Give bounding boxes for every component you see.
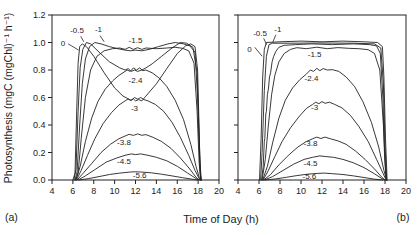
curve-depth--5.6 <box>265 173 383 180</box>
panel-b: 4681012141618200-0.5-1-1.5-2.4-3-3.8-4.5… <box>234 15 411 196</box>
y-tick-label: 0.4 <box>33 120 46 130</box>
curve-label-depth--1: -1 <box>95 25 103 34</box>
curve-label-depth-0: 0 <box>61 39 66 48</box>
x-tick-label: 6 <box>256 186 261 196</box>
curve-label-depth--2.4: -2.4 <box>129 76 143 85</box>
x-tick-label: 16 <box>172 186 182 196</box>
curve-label-depth--3.8: -3.8 <box>304 139 318 148</box>
x-tick-label: 14 <box>338 186 348 196</box>
y-tick-label: 0.0 <box>33 175 46 185</box>
x-tick-label: 18 <box>380 186 390 196</box>
curve-label-depth--4.5: -4.5 <box>304 159 318 168</box>
panel-b-letter: (b) <box>397 211 410 223</box>
curve-label-depth--1.5: -1.5 <box>308 50 322 59</box>
panel-a: 4681012141618200.00.20.40.60.81.01.20-0.… <box>33 10 224 196</box>
x-tick-label: 10 <box>110 186 120 196</box>
x-tick-label: 4 <box>49 186 54 196</box>
curve-label-leader <box>100 36 104 42</box>
curve-label-depth--0.5: -0.5 <box>253 29 267 38</box>
x-tick-label: 14 <box>151 186 161 196</box>
curve-label-depth--2.4: -2.4 <box>305 74 319 83</box>
x-tick-label: 10 <box>296 186 306 196</box>
x-tick-label: 12 <box>130 186 140 196</box>
x-tick-label: 20 <box>214 186 224 196</box>
x-tick-label: 8 <box>277 186 282 196</box>
curve-label-depth--5.6: -5.6 <box>133 171 147 180</box>
curve-label-depth--3.8: -3.8 <box>117 138 131 147</box>
curve-label-leader <box>68 44 78 50</box>
curve-label-depth--3: -3 <box>311 103 319 112</box>
y-tick-label: 1.0 <box>33 38 46 48</box>
curve-label-depth--3: -3 <box>131 104 139 113</box>
y-tick-label: 1.2 <box>33 10 46 20</box>
curve-depth--2.4 <box>263 68 387 180</box>
x-tick-label: 6 <box>70 186 75 196</box>
x-tick-label: 18 <box>193 186 203 196</box>
x-tick-label: 20 <box>401 186 411 196</box>
curve-label-leader <box>273 35 276 43</box>
figure: Photosynthesis (mgC (mgChl)⁻¹ h⁻¹) Time … <box>0 0 418 235</box>
curve-depth--0.5 <box>261 43 387 180</box>
curve-depth--4.5 <box>264 156 385 180</box>
y-tick-label: 0.2 <box>33 148 46 158</box>
curve-label-depth--0.5: -0.5 <box>70 26 84 35</box>
x-tick-label: 4 <box>235 186 240 196</box>
x-tick-label: 16 <box>359 186 369 196</box>
curve-label-depth--1: -1 <box>274 25 282 34</box>
x-tick-label: 12 <box>317 186 327 196</box>
y-tick-label: 0.8 <box>33 65 46 75</box>
y-axis-title: Photosynthesis (mgC (mgChl)⁻¹ h⁻¹) <box>2 13 14 183</box>
curve-label-leader <box>264 38 267 44</box>
curve-label-depth--4.5: -4.5 <box>117 157 131 166</box>
curve-label-depth--5.6: -5.6 <box>303 172 317 181</box>
curve-label-depth-0: 0 <box>247 45 252 54</box>
x-axis-title: Time of Day (h) <box>183 213 258 225</box>
y-tick-label: 0.6 <box>33 93 46 103</box>
x-tick-label: 8 <box>91 186 96 196</box>
curve-label-leader <box>255 47 262 56</box>
chart-svg: Photosynthesis (mgC (mgChl)⁻¹ h⁻¹) Time … <box>0 0 418 235</box>
curve-label-leader <box>81 36 84 42</box>
panel-a-letter: (a) <box>5 211 18 223</box>
curve-label-depth--1.5: -1.5 <box>129 36 143 45</box>
